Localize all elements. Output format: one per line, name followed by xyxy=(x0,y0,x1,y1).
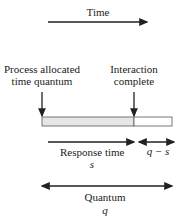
allocated-label-line2: time quantum xyxy=(0,75,84,87)
time-label: Time xyxy=(78,6,118,18)
bar-unused-segment xyxy=(134,117,172,126)
allocated-label-line1: Process allocated xyxy=(0,63,84,75)
complete-label-line1: Interaction xyxy=(104,63,164,75)
response-time-label: Response time xyxy=(60,146,124,158)
diagram-canvas xyxy=(0,0,188,220)
complete-label-line2: complete xyxy=(104,75,164,87)
bar-used-segment xyxy=(42,117,134,126)
response-time-symbol: s xyxy=(82,158,102,170)
quantum-symbol: q xyxy=(95,204,115,216)
remainder-symbol: q − s xyxy=(140,145,176,157)
quantum-label: Quantum xyxy=(80,191,130,203)
